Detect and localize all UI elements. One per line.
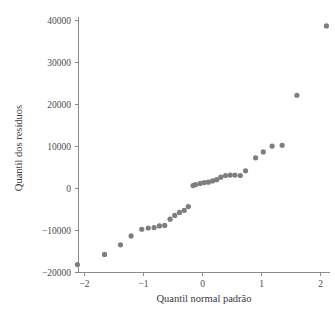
- data-point: [223, 173, 228, 178]
- data-point: [232, 172, 237, 177]
- data-point: [118, 242, 123, 247]
- data-point: [162, 223, 167, 228]
- y-axis-title: Quantil dos resíduos: [13, 105, 24, 191]
- scatter-plot-canvas: 40000 30000 20000 10000 0 −10000 −20000 …: [0, 0, 335, 316]
- data-point: [182, 208, 187, 213]
- y-tick-label-30000: 30000: [47, 58, 71, 68]
- data-point: [253, 155, 258, 160]
- data-point: [324, 23, 329, 28]
- x-tick-label-minus1: −1: [138, 279, 148, 289]
- data-point: [218, 175, 223, 180]
- data-point: [243, 168, 248, 173]
- data-point: [152, 225, 157, 230]
- x-tick-label-minus2: −2: [79, 279, 89, 289]
- y-tick-label-minus10000: −10000: [42, 226, 71, 236]
- y-tick-label-0: 0: [66, 184, 71, 194]
- y-tick-label-20000: 20000: [47, 100, 71, 110]
- qq-plot-figure: 40000 30000 20000 10000 0 −10000 −20000 …: [0, 0, 335, 316]
- data-point-group: [75, 23, 329, 267]
- y-tick-label-10000: 10000: [47, 142, 71, 152]
- x-tick-label-0: 0: [200, 279, 205, 289]
- data-point: [177, 210, 182, 215]
- data-point: [172, 213, 177, 218]
- data-point: [102, 252, 107, 257]
- data-point: [146, 225, 151, 230]
- data-point: [193, 182, 198, 187]
- data-point: [270, 143, 275, 148]
- data-point: [167, 217, 172, 222]
- x-tick-label-2: 2: [318, 279, 323, 289]
- data-point: [129, 233, 134, 238]
- data-point: [157, 223, 162, 228]
- data-point: [139, 227, 144, 232]
- data-point: [228, 172, 233, 177]
- data-point: [280, 143, 285, 148]
- data-point: [294, 93, 299, 98]
- data-point: [186, 204, 191, 209]
- data-point: [238, 173, 243, 178]
- x-axis-title: Quantil normal padrão: [156, 293, 251, 304]
- y-tick-label-minus20000: −20000: [42, 268, 71, 278]
- x-tick-label-1: 1: [259, 279, 264, 289]
- data-point: [75, 262, 80, 267]
- data-point: [261, 149, 266, 154]
- y-tick-label-40000: 40000: [47, 16, 71, 26]
